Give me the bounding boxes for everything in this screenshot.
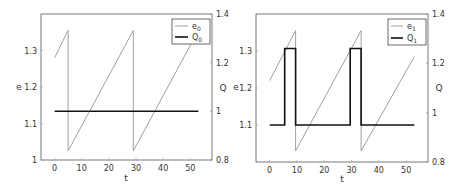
- plot-area: [55, 30, 199, 150]
- legend: e0 Q0: [172, 19, 210, 44]
- svg-text:10: 10: [292, 166, 302, 175]
- svg-text:1.2: 1.2: [24, 83, 37, 92]
- plot-area: [270, 31, 415, 151]
- svg-text:40: 40: [158, 164, 168, 173]
- x-axis-label: t: [340, 174, 344, 184]
- svg-text:1.2: 1.2: [216, 59, 229, 68]
- svg-text:20: 20: [319, 166, 329, 175]
- svg-text:1.3: 1.3: [24, 47, 37, 56]
- svg-text:10: 10: [77, 164, 87, 173]
- y-axis-label-left: e: [16, 82, 22, 92]
- svg-text:1: 1: [32, 156, 37, 165]
- svg-text:0.8: 0.8: [432, 158, 445, 167]
- svg-text:0.8: 0.8: [216, 156, 229, 165]
- svg-text:1: 1: [432, 109, 437, 118]
- svg-text:1.1: 1.1: [239, 121, 252, 130]
- svg-text:1.4: 1.4: [216, 10, 229, 19]
- series-Q1: [270, 49, 415, 126]
- y-ticks-left: 11.11.21.3: [24, 47, 43, 166]
- chart-panel-left: 01020304050 11.11.21.3 0.811.21.4 t e Q …: [0, 0, 229, 189]
- svg-text:30: 30: [346, 166, 356, 175]
- chart-panel-right: 01020304050 1.11.21.3 0.811.21.4 t e Q e…: [229, 0, 458, 189]
- series-e0: [55, 30, 199, 150]
- y-axis-label-right: Q: [435, 83, 442, 93]
- y-axis-label-right: Q: [219, 83, 226, 93]
- svg-text:40: 40: [374, 166, 384, 175]
- svg-text:0: 0: [52, 164, 57, 173]
- svg-text:0: 0: [267, 166, 272, 175]
- svg-text:1.4: 1.4: [432, 10, 445, 19]
- legend: e1 Q1: [388, 19, 426, 45]
- y-axis-label-left: e: [233, 82, 239, 92]
- svg-text:1.1: 1.1: [24, 120, 37, 129]
- y-ticks-left: 1.11.21.3: [239, 47, 258, 130]
- svg-text:20: 20: [104, 164, 114, 173]
- svg-text:50: 50: [185, 164, 195, 173]
- svg-text:1: 1: [216, 107, 221, 116]
- svg-text:1.2: 1.2: [432, 59, 445, 68]
- x-axis-label: t: [124, 173, 128, 183]
- svg-text:1.2: 1.2: [239, 84, 252, 93]
- svg-text:1.3: 1.3: [239, 47, 252, 56]
- svg-text:50: 50: [401, 166, 411, 175]
- svg-text:30: 30: [131, 164, 141, 173]
